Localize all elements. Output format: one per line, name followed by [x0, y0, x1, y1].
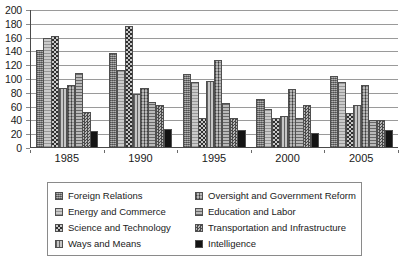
legend-item-label: Foreign Relations: [68, 191, 142, 201]
legend-item-label: Oversight and Government Reform: [208, 191, 356, 201]
legend-swatch-icon: [55, 208, 63, 216]
legend-item[interactable]: Oversight and Government Reform: [195, 188, 355, 203]
legend-swatch-icon: [195, 208, 203, 216]
legend-swatch-icon: [195, 224, 203, 232]
y-axis-tick-mark: [26, 148, 30, 149]
bar-group-1985: [30, 10, 104, 148]
legend-item[interactable]: Foreign Relations: [55, 188, 195, 203]
legend-item-label: Education and Labor: [208, 207, 296, 217]
y-axis-tick-label: 0: [16, 143, 22, 154]
bar-group-2000: [251, 10, 325, 148]
bar-group-2005: [324, 10, 398, 148]
legend-item-label: Transportation and Infrastructure: [208, 223, 346, 233]
x-axis-tick-mark: [251, 150, 252, 153]
y-axis-tick-label: 100: [5, 74, 22, 85]
legend-item[interactable]: Ways and Means: [55, 236, 195, 251]
y-axis-tick-label: 80: [11, 88, 22, 99]
legend-item-label: Intelligence: [208, 239, 256, 249]
y-axis-tick-label: 20: [11, 129, 22, 140]
y-axis-tick-label: 140: [5, 46, 22, 57]
legend-item-label: Energy and Commerce: [68, 207, 166, 217]
bar: [237, 130, 245, 148]
x-axis-line: [30, 147, 398, 148]
legend-swatch-icon: [55, 240, 63, 248]
x-axis-tick-label: 1995: [202, 153, 226, 164]
y-axis-tick-label: 180: [5, 19, 22, 30]
y-axis-tick-label: 40: [11, 115, 22, 126]
y-axis-tick-label: 60: [11, 101, 22, 112]
bar-group-1990: [104, 10, 178, 148]
y-axis: 020406080100120140160180200: [0, 0, 30, 148]
x-axis-tick-label: 2000: [275, 153, 299, 164]
bar: [164, 129, 172, 148]
legend-swatch-icon: [55, 224, 63, 232]
legend-item[interactable]: Transportation and Infrastructure: [195, 220, 355, 235]
x-axis: 19851990199520002005: [30, 150, 398, 170]
y-axis-tick-label: 200: [5, 5, 22, 16]
x-axis-tick-mark: [104, 150, 105, 153]
bar: [311, 133, 319, 148]
x-axis-tick-mark: [398, 150, 399, 153]
legend-item[interactable]: Energy and Commerce: [55, 204, 195, 219]
bar: [385, 130, 393, 148]
x-axis-tick-mark: [30, 150, 31, 153]
x-axis-tick-mark: [177, 150, 178, 153]
x-axis-tick-label: 1990: [128, 153, 152, 164]
plot-wrapper: 020406080100120140160180200 198519901995…: [0, 0, 408, 172]
x-axis-tick-mark: [324, 150, 325, 153]
y-axis-tick-label: 120: [5, 60, 22, 71]
legend: Foreign RelationsEnergy and CommerceScie…: [47, 182, 362, 256]
legend-column-right: Oversight and Government ReformEducation…: [195, 188, 355, 251]
legend-item[interactable]: Education and Labor: [195, 204, 355, 219]
x-axis-tick-label: 1985: [55, 153, 79, 164]
legend-item-label: Science and Technology: [68, 223, 171, 233]
plot-area: [30, 10, 398, 148]
legend-item-label: Ways and Means: [68, 239, 141, 249]
y-axis-tick-label: 160: [5, 32, 22, 43]
legend-swatch-icon: [195, 192, 203, 200]
legend-item[interactable]: Intelligence: [195, 236, 355, 251]
bar-chart: 020406080100120140160180200 198519901995…: [0, 0, 408, 265]
legend-item[interactable]: Science and Technology: [55, 220, 195, 235]
legend-column-left: Foreign RelationsEnergy and CommerceScie…: [55, 188, 195, 251]
legend-swatch-icon: [195, 240, 203, 248]
y-axis-line: [30, 10, 31, 148]
bar-group-1995: [177, 10, 251, 148]
bars-layer: [30, 10, 398, 148]
legend-swatch-icon: [55, 192, 63, 200]
x-axis-tick-label: 2005: [349, 153, 373, 164]
bar: [90, 131, 98, 148]
